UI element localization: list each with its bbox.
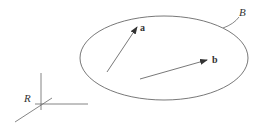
- diagram-svg: B a b R: [0, 0, 260, 131]
- frame-r-label: R: [23, 92, 31, 104]
- vector-b-arrow: [140, 60, 207, 79]
- body-b-label: B: [239, 6, 246, 18]
- rigid-body-b: [80, 16, 248, 100]
- vector-a-label: a: [140, 22, 145, 33]
- diagram-canvas: B a b R: [0, 0, 260, 131]
- vector-a-arrow: [107, 27, 137, 72]
- frame-diagonal-axis: [15, 98, 52, 122]
- body-b-leader-line: [223, 17, 239, 28]
- vector-b-label: b: [212, 54, 218, 65]
